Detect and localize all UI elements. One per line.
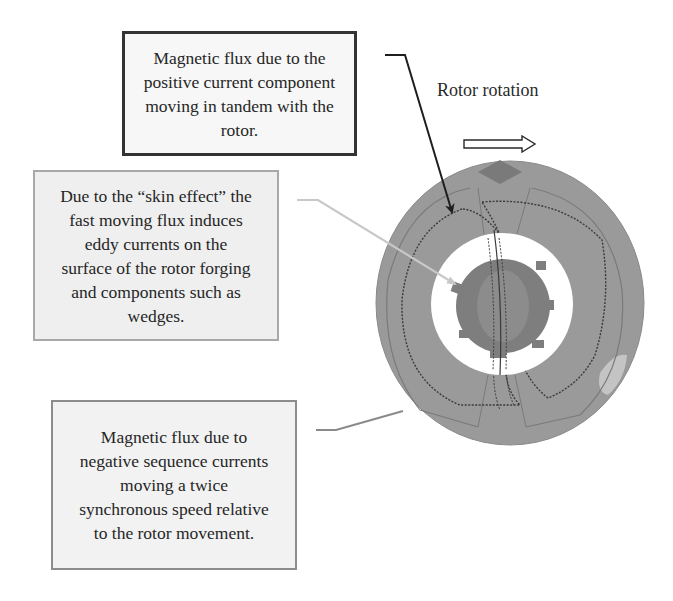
callout-line: surface of the rotor forging	[60, 256, 252, 280]
callout-skin-effect: Due to the “skin effect” the fast moving…	[33, 170, 279, 341]
callout-negative-sequence: Magnetic flux due to negative sequence c…	[51, 400, 297, 570]
callout-line: positive current component	[144, 70, 335, 94]
callout-positive-current: Magnetic flux due to the positive curren…	[122, 31, 357, 156]
callout-line: rotor.	[144, 118, 335, 142]
callout-line: moving in tandem with the	[144, 94, 335, 118]
callout-line: eddy currents on the	[60, 232, 252, 256]
rotation-arrow-icon	[464, 136, 535, 152]
rotor-rotation-label: Rotor rotation	[437, 80, 539, 101]
callout-line: Magnetic flux due to the	[144, 46, 335, 70]
callout-line: and components such as	[60, 280, 252, 304]
callout-line: negative sequence currents	[79, 449, 269, 473]
callout-line: to the rotor movement.	[79, 521, 269, 545]
callout-line: wedges.	[60, 304, 252, 328]
negative-sequence-leader-line	[316, 411, 403, 430]
callout-line: Due to the “skin effect” the	[60, 184, 252, 208]
callout-line: moving a twice	[79, 473, 269, 497]
callout-line: synchronous speed relative	[79, 497, 269, 521]
callout-line: Magnetic flux due to	[79, 425, 269, 449]
callout-line: fast moving flux induces	[60, 208, 252, 232]
